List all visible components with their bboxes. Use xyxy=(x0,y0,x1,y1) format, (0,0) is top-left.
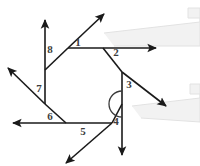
angle-label-one: 1 xyxy=(75,36,81,48)
angle-label-six: 6 xyxy=(47,110,53,122)
figure-canvas: 12345678 xyxy=(0,0,200,166)
reflex-arc-at-vertex-4 xyxy=(109,91,122,117)
angle-label-two: 2 xyxy=(113,46,119,58)
angle-labels-group: 12345678 xyxy=(36,36,132,137)
geometry-figure: 12345678 xyxy=(0,0,200,166)
angle-arc-group xyxy=(109,91,122,117)
callout-upper-right xyxy=(104,8,200,46)
angle-label-five: 5 xyxy=(80,125,86,137)
ray-5-down-left xyxy=(66,123,112,163)
angle-label-three: 3 xyxy=(126,78,132,90)
angle-label-eight: 8 xyxy=(47,43,53,55)
angle-label-seven: 7 xyxy=(36,82,42,94)
callout-lower-right xyxy=(132,84,200,122)
octagon-outline xyxy=(45,48,122,123)
callout-group xyxy=(104,8,200,122)
ray-1-up-right xyxy=(68,14,104,48)
angle-label-four: 4 xyxy=(113,115,119,127)
